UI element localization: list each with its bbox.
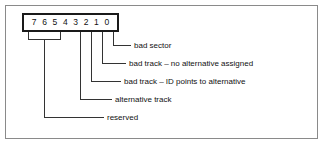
callout-label-reserved: reserved [107,113,138,122]
bit-field-diagram: 7 6 5 4 3 2 1 0 bad sector bad track – n… [0,0,324,145]
callout-label-bad-sector: bad sector [134,41,171,50]
bit-cell-4: 4 [60,15,70,30]
callout-label-bad-track-no-alternative: bad track – no alternative assigned [129,59,253,68]
bit-cell-6: 6 [39,15,49,30]
bit-cell-7: 7 [29,15,39,30]
bit-cell-0: 0 [102,15,112,30]
bit-cell-5: 5 [50,15,60,30]
bit-cell-3: 3 [71,15,81,30]
callout-label-bad-track-id-points: bad track – ID points to alternative [124,77,245,86]
bit-cell-1: 1 [91,15,101,30]
callout-label-alternative-track: alternative track [115,95,171,104]
bit-box: 7 6 5 4 3 2 1 0 [22,13,119,32]
bit-cell-2: 2 [81,15,91,30]
